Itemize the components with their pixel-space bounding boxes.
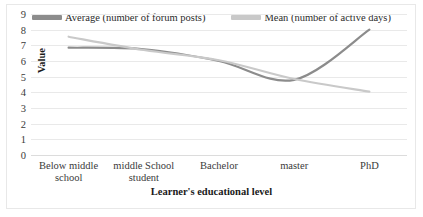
x-axis-title: Learner's educational level — [0, 186, 423, 197]
series-lines — [31, 14, 407, 155]
x-axis-ticks: Below middle schoolmiddle School student… — [31, 160, 407, 184]
plot-area — [31, 14, 407, 155]
y-axis-tick-label: 1 — [21, 134, 26, 145]
y-axis-ticks: 9876543210 — [6, 14, 28, 155]
y-axis-tick-label: 5 — [21, 71, 26, 82]
y-axis-tick-label: 6 — [21, 56, 26, 67]
y-axis-tick-label: 8 — [21, 24, 26, 35]
series-line-average — [69, 30, 370, 81]
y-axis-tick-label: 7 — [21, 40, 26, 51]
y-axis-tick-label: 3 — [21, 103, 26, 114]
y-axis-tick-label: 4 — [21, 87, 26, 98]
y-axis-tick-label: 9 — [21, 9, 26, 20]
x-axis-tick-label: middle School student — [106, 160, 181, 184]
gridline — [31, 155, 407, 156]
x-axis-tick-label: PhD — [332, 160, 407, 184]
line-chart: Average (number of forum posts) Mean (nu… — [0, 0, 423, 217]
x-axis-tick-label: Below middle school — [31, 160, 106, 184]
y-axis-tick-label: 0 — [21, 150, 26, 161]
x-axis-tick-label: master — [257, 160, 332, 184]
y-axis-tick-label: 2 — [21, 118, 26, 129]
x-axis-tick-label: Bachelor — [181, 160, 256, 184]
